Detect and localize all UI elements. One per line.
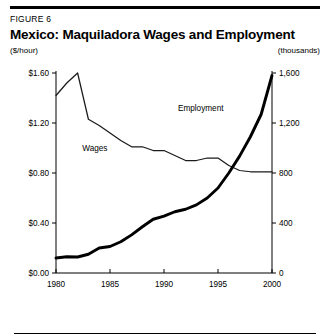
left-axis-tick-label: $1.60 [29, 69, 50, 78]
x-axis-tick-label: 2000 [263, 280, 282, 289]
right-axis-tick-label: 1,600 [279, 69, 300, 78]
x-axis-tick-label: 1985 [101, 280, 120, 289]
line-chart: $0.00$0.40$0.80$1.20$1.6004008001,2001,6… [10, 59, 320, 295]
annotation-wages: Wages [82, 144, 107, 153]
x-axis-tick-label: 1980 [47, 280, 66, 289]
left-axis-tick-label: $0.40 [29, 219, 50, 228]
page-title: Mexico: Maquiladora Wages and Employment [10, 27, 320, 42]
x-axis-tick-label: 1995 [209, 280, 228, 289]
axis-units-row: ($/hour) (thousands) [10, 46, 320, 55]
x-axis-tick-label: 1990 [155, 280, 174, 289]
series-line-employment [56, 76, 272, 259]
right-axis-tick-label: 400 [279, 219, 293, 228]
bottom-rule [14, 333, 316, 334]
left-axis-tick-label: $0.80 [29, 169, 50, 178]
left-axis-unit: ($/hour) [10, 46, 38, 55]
right-axis-tick-label: 1,200 [279, 119, 300, 128]
right-axis-unit: (thousands) [278, 46, 320, 55]
left-axis-tick-label: $0.00 [29, 269, 50, 278]
figure-panel: FIGURE 6 Mexico: Maquiladora Wages and E… [0, 6, 330, 336]
right-axis-tick-label: 0 [279, 269, 284, 278]
annotation-employment: Employment [178, 104, 224, 113]
top-rule [10, 6, 320, 9]
chart-plot-area: $0.00$0.40$0.80$1.20$1.6004008001,2001,6… [10, 59, 320, 295]
figure-number: FIGURE 6 [10, 14, 320, 24]
left-axis-tick-label: $1.20 [29, 119, 50, 128]
right-axis-tick-label: 800 [279, 169, 293, 178]
